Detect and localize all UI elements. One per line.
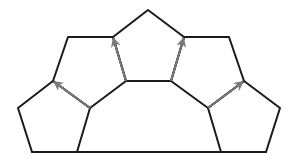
pentagons-group — [18, 10, 280, 152]
pentagon-right-lower — [208, 81, 280, 152]
arrow-3-icon — [171, 39, 183, 81]
arrow-2-icon — [114, 39, 126, 81]
arrows-group — [55, 39, 243, 108]
arrow-1-icon — [55, 82, 90, 108]
arrow-4-icon — [208, 82, 242, 108]
pentagon-left-lower — [18, 81, 90, 152]
pentagon-left-upper — [53, 37, 126, 108]
pentagon-right-upper — [171, 37, 244, 108]
pentagon-arch-diagram — [0, 0, 295, 161]
